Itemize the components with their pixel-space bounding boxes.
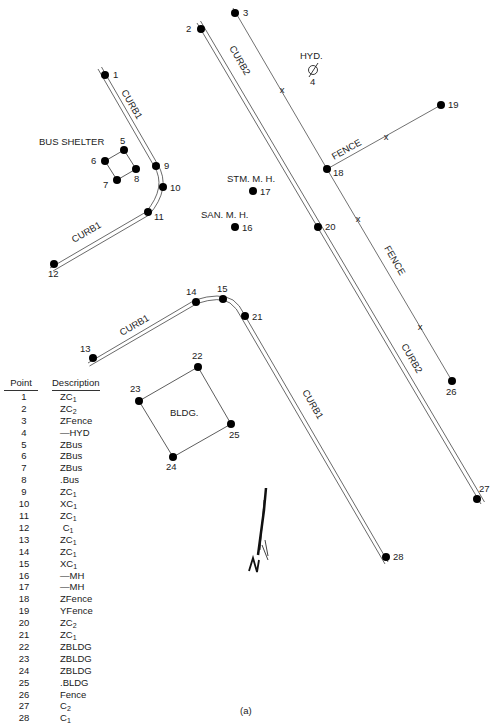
- description-code: XC: [60, 498, 73, 509]
- svg-text:x: x: [418, 321, 423, 332]
- svg-text:5: 5: [120, 135, 125, 146]
- svg-text:3: 3: [243, 7, 248, 18]
- svg-text:11: 11: [154, 211, 164, 222]
- point-number: 17: [4, 581, 44, 593]
- point-number: 8: [4, 474, 44, 486]
- point-number: 26: [4, 689, 44, 701]
- point-description: ZC1: [44, 391, 114, 403]
- point-number: 28: [4, 712, 44, 724]
- curb1-label-diag: CURB1: [300, 388, 326, 421]
- north-arrow-icon: [249, 488, 268, 572]
- description-code: ZBLDG: [60, 653, 92, 664]
- point-description: ZBLDG: [44, 665, 114, 677]
- point-description: ZBus: [44, 450, 114, 462]
- point-number: 6: [4, 450, 44, 462]
- table-row: 5ZBus: [4, 439, 114, 451]
- svg-text:14: 14: [186, 286, 197, 297]
- point-description: ZFence: [44, 593, 114, 605]
- point-number: 4: [4, 427, 44, 439]
- point-number: 15: [4, 558, 44, 570]
- point-number: 7: [4, 462, 44, 474]
- point-description: ZC1: [44, 486, 114, 498]
- figure-caption: (a): [240, 705, 252, 716]
- point-description: ZBus: [44, 462, 114, 474]
- curb1-label-lower: CURB1: [118, 312, 151, 338]
- feature-labels: BUS SHELTER HYD. STM. M. H. SAN. M. H. B…: [39, 44, 425, 421]
- point-number: 27: [4, 700, 44, 712]
- svg-text:2: 2: [186, 23, 191, 34]
- description-code: ZC: [60, 391, 73, 402]
- point-number: 13: [4, 534, 44, 546]
- point-description: ZFence: [44, 415, 114, 427]
- point-number: 1: [4, 391, 44, 403]
- svg-text:28: 28: [393, 551, 404, 562]
- point-description: —MH: [44, 570, 114, 582]
- point-description: Fence: [44, 689, 114, 701]
- point-description-table: Point Description 1ZC12ZC23ZFence4—HYD5Z…: [4, 377, 114, 724]
- table-row: 15XC1: [4, 558, 114, 570]
- description-code: .Bus: [60, 474, 79, 485]
- svg-text:18: 18: [333, 167, 344, 178]
- survey-points: [50, 9, 481, 561]
- point-number: 9: [4, 486, 44, 498]
- description-code: ZC: [60, 510, 73, 521]
- svg-text:19: 19: [448, 99, 459, 110]
- table-row: 18ZFence: [4, 593, 114, 605]
- table-body: 1ZC12ZC23ZFence4—HYD5ZBus6ZBus7ZBus8.Bus…: [4, 391, 114, 724]
- point-number: 23: [4, 653, 44, 665]
- fence-label-right: FENCE: [382, 244, 408, 277]
- description-code: ZBus: [60, 462, 82, 473]
- table-row: 7ZBus: [4, 462, 114, 474]
- svg-text:9: 9: [164, 160, 169, 171]
- svg-text:1: 1: [113, 69, 118, 80]
- point-description: —MH: [44, 581, 114, 593]
- table-row: 20ZC2: [4, 617, 114, 629]
- point-description: ZC1: [44, 629, 114, 641]
- svg-text:15: 15: [217, 283, 228, 294]
- curb2-line: [197, 21, 485, 504]
- table-row: 10XC1: [4, 498, 114, 510]
- point-description: ZBLDG: [44, 653, 114, 665]
- point-number: 3: [4, 415, 44, 427]
- description-code: YFence: [60, 605, 93, 616]
- point-number: 16: [4, 570, 44, 582]
- description-code: —MH: [60, 570, 84, 581]
- description-code: C: [60, 700, 67, 711]
- svg-text:x: x: [356, 213, 361, 224]
- svg-text:16: 16: [242, 222, 253, 233]
- point-number: 22: [4, 641, 44, 653]
- description-code: ZC: [60, 629, 73, 640]
- point-number: 12: [4, 522, 44, 534]
- point-description: ZC1: [44, 546, 114, 558]
- description-code: ZBus: [60, 439, 82, 450]
- point-number: 24: [4, 665, 44, 677]
- table-row: 22ZBLDG: [4, 641, 114, 653]
- point-number: 19: [4, 605, 44, 617]
- description-code: ZC: [60, 403, 73, 414]
- point-description: YFence: [44, 605, 114, 617]
- description-code: ZC: [60, 546, 73, 557]
- table-row: 26Fence: [4, 689, 114, 701]
- table-row: 6ZBus: [4, 450, 114, 462]
- description-code: .BLDG: [60, 677, 89, 688]
- svg-text:20: 20: [325, 221, 336, 232]
- point-description: ZBLDG: [44, 641, 114, 653]
- table-row: 23ZBLDG: [4, 653, 114, 665]
- point-description: XC1: [44, 558, 114, 570]
- svg-text:x: x: [280, 84, 285, 95]
- svg-text:6: 6: [91, 155, 96, 166]
- description-code: C: [60, 712, 67, 723]
- point-number: 2: [4, 403, 44, 415]
- point-number: 10: [4, 498, 44, 510]
- point-description: ZBus: [44, 439, 114, 451]
- bus-shelter-label: BUS SHELTER: [39, 136, 104, 147]
- table-header: Point Description: [4, 377, 114, 391]
- svg-text:23: 23: [130, 383, 141, 394]
- svg-text:13: 13: [80, 343, 91, 354]
- table-row: 13ZC1: [4, 534, 114, 546]
- storm-manhole-label: STM. M. H.: [227, 173, 275, 184]
- svg-text:8: 8: [134, 173, 139, 184]
- table-row: 3ZFence: [4, 415, 114, 427]
- curb2-label-top: CURB2: [227, 44, 253, 77]
- svg-text:10: 10: [170, 182, 181, 193]
